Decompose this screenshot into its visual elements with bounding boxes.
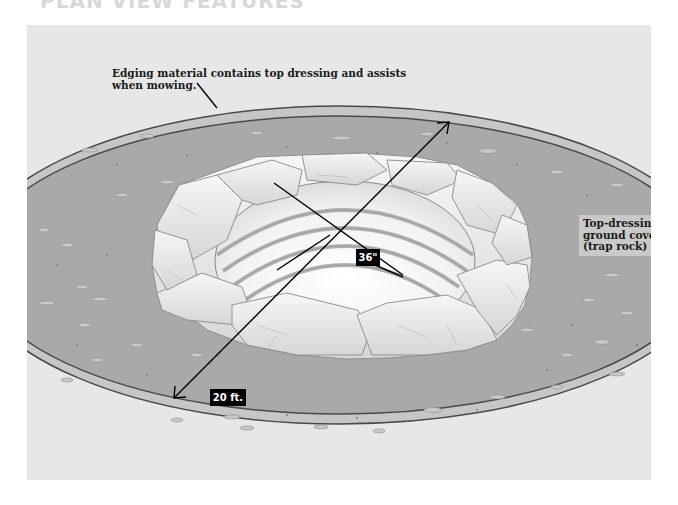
top-dressing-callout: Top-dressing ground cover (trap rock) bbox=[579, 215, 651, 256]
top-dressing-line-1: Top-dressing bbox=[583, 218, 651, 230]
edging-callout: Edging material contains top dressing an… bbox=[112, 67, 412, 91]
diagram-title: PLAN VIEW FEATURES bbox=[40, 0, 305, 13]
top-dressing-line-3: (trap rock) bbox=[583, 241, 651, 253]
pit-diameter-label: 36" bbox=[356, 249, 380, 266]
fire-pit-illustration bbox=[27, 25, 651, 480]
plan-view-panel: Edging material contains top dressing an… bbox=[27, 25, 651, 480]
area-diameter-label: 20 ft. bbox=[210, 389, 246, 406]
